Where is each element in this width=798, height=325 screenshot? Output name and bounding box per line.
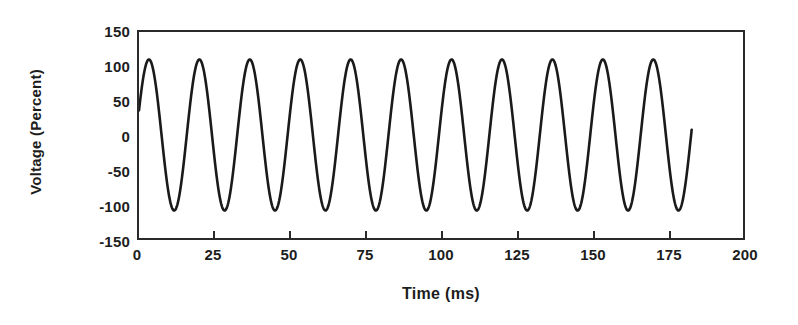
x-tick-label-25: 25 <box>183 246 243 263</box>
x-tick-mark-75 <box>365 231 367 240</box>
x-tick-label-0: 0 <box>107 246 167 263</box>
x-tick-label-175: 175 <box>639 246 699 263</box>
x-tick-mark-125 <box>517 231 519 240</box>
x-tick-mark-150 <box>593 231 595 240</box>
chart-figure: Voltage (Percent) 150 100 50 0 -50 -100 … <box>0 0 798 325</box>
plot-area <box>137 30 745 240</box>
x-tick-label-50: 50 <box>259 246 319 263</box>
y-tick-label-50: 50 <box>68 93 130 110</box>
x-tick-mark-100 <box>441 231 443 240</box>
x-tick-mark-50 <box>289 231 291 240</box>
x-tick-label-75: 75 <box>335 246 395 263</box>
y-tick-label-neg50: -50 <box>68 163 130 180</box>
voltage-waveform-line <box>139 59 692 210</box>
x-tick-label-100: 100 <box>411 246 471 263</box>
x-tick-label-150: 150 <box>563 246 623 263</box>
y-tick-label-150: 150 <box>68 23 130 40</box>
x-tick-mark-175 <box>669 231 671 240</box>
x-tick-label-200: 200 <box>715 246 775 263</box>
y-tick-label-neg100: -100 <box>68 198 130 215</box>
y-tick-label-100: 100 <box>68 58 130 75</box>
y-axis-title: Voltage (Percent) <box>22 12 50 252</box>
x-tick-mark-0 <box>137 231 139 240</box>
x-tick-label-125: 125 <box>487 246 547 263</box>
y-tick-label-0: 0 <box>68 128 130 145</box>
x-tick-mark-25 <box>213 231 215 240</box>
y-tick-label-group: 150 100 50 0 -50 -100 -150 <box>62 0 130 325</box>
waveform-plot <box>139 32 743 238</box>
x-axis-title: Time (ms) <box>137 285 745 303</box>
